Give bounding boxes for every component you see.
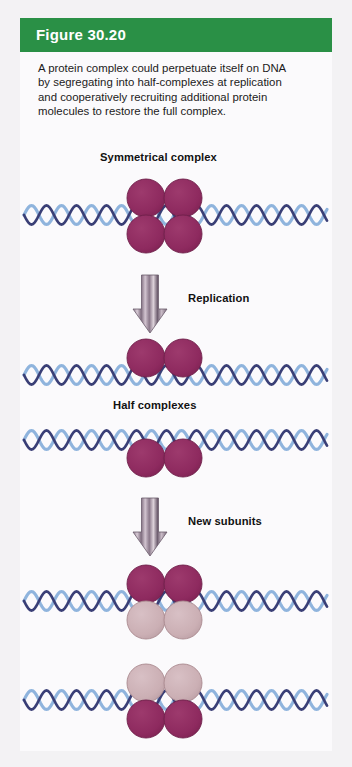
protein-subunit-old-top-left [127,179,165,217]
protein-subunit-old-bottom-right [164,215,202,253]
figure-root: Figure 30.20 A protein complex could per… [0,0,352,767]
protein-subunit-layer [127,179,202,738]
protein-subunit-old-top-right [164,179,202,217]
arrow-down-icon [133,498,167,556]
protein-subunit-new-bottom-left [127,601,165,639]
protein-subunit-old-bottom-right [164,700,202,738]
protein-subunit-old-bottom-left [127,215,165,253]
label-new-subunits: New subunits [188,515,262,527]
complex-half-complex-lower [127,439,202,477]
protein-subunit-old-top-right [164,339,202,377]
new-subunits-arrow [133,498,167,556]
protein-subunit-new-top-left [127,664,165,702]
protein-subunit-old-top-right [164,565,202,603]
protein-subunit-new-bottom-right [164,601,202,639]
protein-subunit-old-bottom-left [127,700,165,738]
label-replication: Replication [188,292,249,304]
protein-subunit-old-bottom-right [164,439,202,477]
protein-subunit-old-top-left [127,565,165,603]
complex-half-complex-upper [127,339,202,377]
protein-subunit-old-top-left [127,339,165,377]
arrow-down-icon [133,275,167,333]
label-symmetrical-complex: Symmetrical complex [100,151,217,163]
diagram-canvas [0,0,352,767]
arrow-layer [133,275,167,556]
replication-arrow [133,275,167,333]
protein-subunit-old-bottom-left [127,439,165,477]
protein-subunit-new-top-right [164,664,202,702]
label-half-complexes: Half complexes [113,399,196,411]
